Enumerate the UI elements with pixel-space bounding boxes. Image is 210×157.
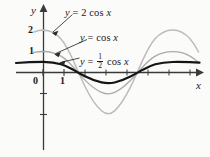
curve-label-cos-lhs: y (80, 32, 85, 43)
curve-label-half-fraction: 1 2 (97, 53, 103, 70)
y-tick-label-2: 2 (28, 25, 33, 35)
x-axis-label: x (196, 80, 201, 91)
fraction-numerator: 1 (97, 53, 103, 61)
leader-line-halfcos (59, 58, 79, 66)
y-axis (40, 4, 48, 150)
curve-label-cos-x: y = cos x (80, 33, 118, 44)
fraction-denominator: 2 (97, 61, 103, 70)
curve-label-2cos-coef: 2 (81, 7, 86, 18)
curve-label-cos-var: x (113, 32, 118, 43)
curve-label-2cos-var: x (106, 7, 111, 18)
curve-label-cos-eq: = (88, 32, 94, 43)
curve-label-half-cos-x: y = 1 2 cos x (80, 53, 129, 70)
curve-label-2cos-fn: cos (89, 7, 103, 18)
curve-label-half-fn: cos (107, 56, 121, 67)
curve-label-2cos-eq: = (73, 7, 79, 18)
curve-label-half-eq: = (88, 56, 94, 67)
x-tick-label-1: 1 (60, 76, 65, 86)
curve-label-cos-fn: cos (96, 32, 110, 43)
cosine-amplitude-figure: y x 2 1 0 1 y = 2 cos x y = cos x y = 1 … (0, 0, 210, 157)
curve-label-2cos-lhs: y (65, 7, 70, 18)
y-axis-label: y (31, 5, 36, 16)
curve-label-half-lhs: y (80, 56, 85, 67)
y-tick-label-1: 1 (29, 46, 34, 56)
x-tick-label-0: 0 (33, 76, 38, 86)
curve-label-half-var: x (124, 56, 129, 67)
curve-label-2cos-x: y = 2 cos x (65, 8, 111, 19)
